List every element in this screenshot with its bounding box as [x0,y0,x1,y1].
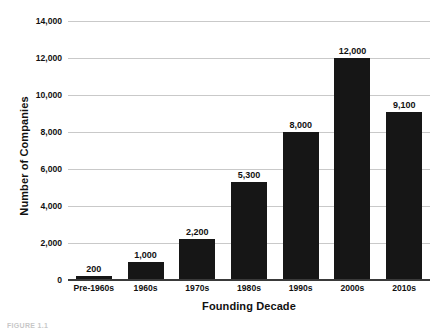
bar-value-label: 12,000 [322,46,382,56]
y-axis-tick-label: 8,000 [0,127,62,137]
gridline [68,132,430,133]
bar-chart-figure: Number of Companies 02,0004,0006,0008,00… [0,0,441,331]
gridline [68,95,430,96]
bar-value-label: 9,100 [374,100,434,110]
gridline [68,58,430,59]
bar[interactable] [283,132,319,280]
y-axis-tick-label: 2,000 [0,238,62,248]
figure-caption: FIGURE 1.1 [7,322,48,329]
y-axis-tick-label: 14,000 [0,16,62,26]
bar-value-label: 1,000 [116,250,176,260]
bar[interactable] [231,182,267,280]
x-axis-line [68,279,430,281]
x-axis-title: Founding Decade [68,300,430,312]
bar-value-label: 5,300 [219,170,279,180]
y-axis-tick-label: 0 [0,275,62,285]
bar-value-label: 8,000 [271,120,331,130]
bar[interactable] [334,58,370,280]
y-axis-tick-label: 6,000 [0,164,62,174]
y-axis-tick-label: 4,000 [0,201,62,211]
y-axis-tick-label: 10,000 [0,90,62,100]
bar[interactable] [128,262,164,281]
y-axis-title: Number of Companies [18,56,30,256]
bar-value-label: 2,200 [167,227,227,237]
gridline [68,21,430,22]
bar[interactable] [179,239,215,280]
bar-value-label: 200 [64,264,124,274]
y-axis-tick-label: 12,000 [0,53,62,63]
plot-area: 2001,0002,2005,3008,00012,0009,100 [68,21,430,280]
bar[interactable] [386,112,422,280]
x-axis-tick-label: 2010s [370,283,438,293]
